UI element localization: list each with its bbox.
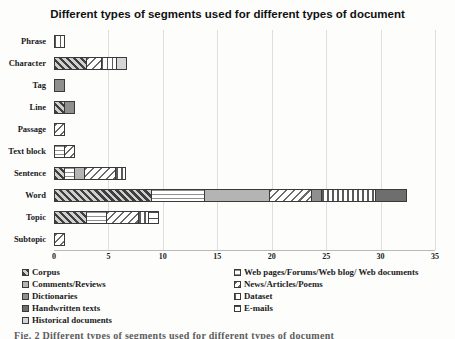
bar-segment (148, 211, 159, 224)
legend-item: Dictionaries (22, 290, 112, 302)
bar-segment (101, 57, 117, 70)
bar-segment (375, 189, 408, 202)
bar-subtopic (54, 228, 435, 250)
legend-item: Corpus (22, 266, 112, 278)
bar-word (54, 184, 435, 206)
bar-segment (204, 189, 269, 202)
bar-segment (54, 189, 152, 202)
legend-swatch-icon (22, 293, 29, 300)
plot-area (54, 30, 435, 251)
tick-label: 30 (370, 252, 392, 261)
bar-segment (269, 189, 313, 202)
legend-item: Historical documents (22, 314, 112, 326)
category-label: Passage (18, 125, 50, 134)
bar-segment (106, 211, 139, 224)
legend-swatch-icon (234, 293, 241, 300)
bar-segment (54, 79, 65, 92)
category-label: Character (9, 59, 50, 68)
legend-label: News/Articles/Poems (244, 280, 323, 289)
bar-line (54, 96, 435, 118)
bar-passage (54, 118, 435, 140)
legend-item: Comments/Reviews (22, 278, 112, 290)
legend-swatch-icon (234, 269, 241, 276)
legend-column: Web pages/Forums/Web blog/ Web documents… (234, 266, 418, 314)
tick-label: 25 (315, 252, 337, 261)
legend-label: Dictionaries (32, 292, 77, 301)
tick-label: 10 (152, 252, 174, 261)
bar-character (54, 52, 435, 74)
legend-item: E-mails (234, 302, 418, 314)
category-label: Word (25, 191, 50, 200)
bar-segment (54, 123, 65, 136)
legend-label: Historical documents (32, 316, 112, 325)
bar-segment (54, 57, 87, 70)
legend-item: Handwritten texts (22, 302, 112, 314)
bar-tag (54, 74, 435, 96)
legend-label: Handwritten texts (32, 304, 100, 313)
legend-item: Dataset (234, 290, 418, 302)
legend-label: Comments/Reviews (32, 280, 106, 289)
category-label: Phrase (21, 37, 50, 46)
legend-column: CorpusComments/ReviewsDictionariesHandwr… (22, 266, 112, 326)
bar-sentence (54, 162, 435, 184)
legend-label: Dataset (244, 292, 272, 301)
chart-title: Different types of segments used for dif… (0, 8, 455, 20)
tick-label: 35 (424, 252, 446, 261)
bar-segment (86, 211, 108, 224)
figure-caption: Fig. 2 Different types of segments used … (14, 330, 454, 339)
legend-swatch-icon (22, 305, 29, 312)
legend-label: Corpus (32, 268, 60, 277)
bar-rows (54, 30, 435, 250)
category-label: Text block (8, 147, 50, 156)
bar-segment (115, 167, 126, 180)
category-label: Line (29, 103, 50, 112)
legend-swatch-icon (22, 269, 29, 276)
x-axis-ticks: 05101520253035 (0, 252, 455, 264)
legend-item: Web pages/Forums/Web blog/ Web documents (234, 266, 418, 278)
legend-label: E-mails (244, 304, 273, 313)
bar-segment (54, 35, 65, 48)
category-label: Topic (26, 213, 50, 222)
bar-segment (151, 189, 205, 202)
tick-label: 20 (261, 252, 283, 261)
legend-swatch-icon (234, 305, 241, 312)
bar-segment (64, 101, 75, 114)
bar-segment (321, 189, 375, 202)
tick-label: 0 (43, 252, 65, 261)
gridline (435, 30, 436, 250)
bar-text-block (54, 140, 435, 162)
bar-segment (84, 167, 117, 180)
y-axis-labels: PhraseCharacterTagLinePassageText blockS… (0, 30, 50, 250)
legend-swatch-icon (234, 281, 241, 288)
legend-label: Web pages/Forums/Web blog/ Web documents (244, 268, 418, 277)
legend-item: News/Articles/Poems (234, 278, 418, 290)
category-label: Subtopic (14, 235, 50, 244)
tick-label: 5 (97, 252, 119, 261)
bar-segment (86, 57, 102, 70)
chart-figure: Different types of segments used for dif… (0, 0, 455, 339)
bar-segment (64, 145, 75, 158)
category-label: Sentence (14, 169, 50, 178)
bar-phrase (54, 30, 435, 52)
bar-topic (54, 206, 435, 228)
bar-segment (116, 57, 127, 70)
category-label: Tag (33, 81, 50, 90)
tick-label: 15 (206, 252, 228, 261)
bar-segment (54, 233, 65, 246)
bar-segment (54, 211, 87, 224)
legend-swatch-icon (22, 317, 29, 324)
legend-swatch-icon (22, 281, 29, 288)
